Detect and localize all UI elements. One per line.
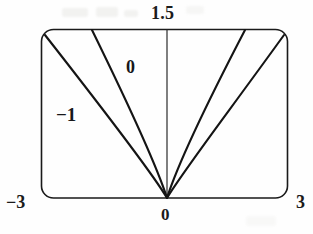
plot-frame-border [42, 30, 288, 199]
axis-label-bottom: 0 [161, 206, 170, 223]
axis-label-top: 1.5 [151, 4, 174, 22]
contour-label-level-minus-1: −1 [56, 105, 76, 124]
plot-canvas [0, 0, 313, 234]
axis-label-right: 3 [296, 193, 305, 211]
axis-label-left: −3 [6, 193, 25, 211]
contour-label-level-0: 0 [126, 58, 135, 76]
figure-container: 1.5 −3 3 0 0 −1 [0, 0, 313, 234]
